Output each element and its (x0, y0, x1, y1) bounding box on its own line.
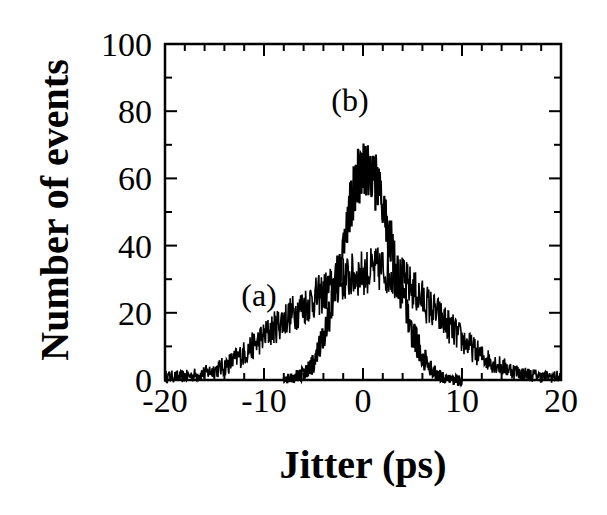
x-axis-title: Jitter (ps) (280, 442, 447, 487)
x-tick-label: 0 (355, 382, 372, 419)
y-tick-label: 0 (135, 362, 152, 399)
y-tick-label: 100 (101, 26, 152, 63)
data-series (165, 144, 561, 385)
x-tick-label: -10 (241, 382, 286, 419)
jitter-histogram-chart: Number of events Jitter (ps) -20-1001020… (0, 0, 607, 515)
y-axis-title: Number of events (32, 59, 77, 360)
x-tick-label: 10 (445, 382, 479, 419)
curve-label: (b) (331, 82, 368, 118)
y-tick-label: 20 (118, 295, 152, 332)
series-a-line (165, 248, 561, 383)
y-tick-label: 60 (118, 160, 152, 197)
x-tick-label: 20 (544, 382, 578, 419)
curve-label: (a) (241, 277, 277, 313)
y-tick-label: 40 (118, 228, 152, 265)
y-tick-label: 80 (118, 93, 152, 130)
